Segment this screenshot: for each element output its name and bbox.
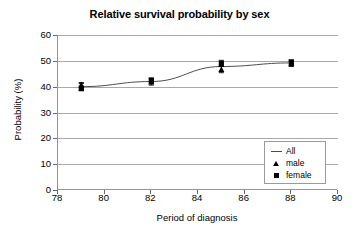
relative-survival-chart: Relative survival probability by sex Pro… xyxy=(0,0,359,237)
x-axis-tick-mark xyxy=(290,190,291,194)
y-axis-title: Probability (%) xyxy=(12,60,23,160)
legend-item-label: All xyxy=(283,146,295,156)
x-axis-tick-label: 86 xyxy=(229,193,259,203)
x-axis-tick-mark xyxy=(337,190,338,194)
data-point-square xyxy=(289,60,294,65)
x-axis-tick-label: 78 xyxy=(42,193,72,203)
x-axis-tick-label: 88 xyxy=(275,193,305,203)
legend-item-label: male xyxy=(283,158,304,168)
data-point-triangle xyxy=(218,67,224,73)
chart-title: Relative survival probability by sex xyxy=(0,8,359,20)
x-axis-tick-label: 90 xyxy=(322,193,352,203)
x-axis-tick-mark xyxy=(57,190,58,194)
data-point-square xyxy=(149,78,154,83)
x-axis-tick-mark xyxy=(197,190,198,194)
series-male xyxy=(78,60,294,90)
y-axis-tick-label: 30 xyxy=(25,108,51,118)
x-axis-tick-mark xyxy=(104,190,105,194)
y-axis-tick-label: 60 xyxy=(25,30,51,40)
legend-item-female: female xyxy=(269,169,325,181)
legend-item-label: female xyxy=(283,170,312,180)
y-axis-tick-label: 40 xyxy=(25,82,51,92)
square-marker-icon xyxy=(269,173,283,178)
x-axis-tick-mark xyxy=(244,190,245,194)
y-axis-tick-label: 10 xyxy=(25,159,51,169)
data-point-square xyxy=(219,61,224,66)
x-axis-tick-label: 84 xyxy=(182,193,212,203)
triangle-marker-icon xyxy=(269,161,283,166)
x-axis-title: Period of diagnosis xyxy=(57,212,337,223)
series-line-all xyxy=(81,63,291,87)
x-axis-tick-label: 82 xyxy=(135,193,165,203)
legend-item-all: All xyxy=(269,145,325,157)
line-key-icon xyxy=(269,151,283,152)
legend: All male female xyxy=(264,141,326,184)
y-axis-tick-label: 20 xyxy=(25,133,51,143)
y-axis-tick-label: 50 xyxy=(25,56,51,66)
legend-item-male: male xyxy=(269,157,325,169)
x-axis-tick-mark xyxy=(150,190,151,194)
data-point-square xyxy=(79,86,84,91)
x-axis-tick-label: 80 xyxy=(89,193,119,203)
